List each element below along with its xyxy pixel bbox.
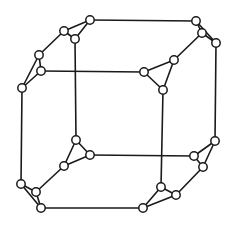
graph-node <box>86 16 94 24</box>
graph-node <box>71 35 79 43</box>
graph-node <box>139 204 147 212</box>
graph-node <box>211 137 219 145</box>
graph-node <box>159 86 167 94</box>
graph-node <box>212 39 220 47</box>
graph-node <box>35 51 43 59</box>
graph-edge <box>41 71 144 72</box>
graph-node <box>157 183 165 191</box>
graph-edge <box>75 39 76 140</box>
graph-edge <box>161 90 163 187</box>
graph-edge <box>176 167 203 195</box>
graph-node <box>140 68 148 76</box>
graph-edges <box>21 20 216 208</box>
graph-node <box>60 162 68 170</box>
graph-edge <box>90 155 194 156</box>
graph-node <box>72 136 80 144</box>
graph-node <box>60 27 68 35</box>
graph-node <box>37 67 45 75</box>
graph-edge <box>21 88 22 184</box>
graph-node <box>198 29 206 37</box>
graph-node <box>170 56 178 64</box>
graph-node <box>18 84 26 92</box>
graph-edge <box>90 20 196 21</box>
graph-node <box>199 163 207 171</box>
graph-node <box>192 17 200 25</box>
graph-edge <box>174 33 202 60</box>
graph-node <box>37 204 45 212</box>
graph-edge <box>36 166 64 192</box>
graph-node <box>190 152 198 160</box>
graph-node <box>172 191 180 199</box>
graph-edge <box>39 31 64 55</box>
graph-node <box>32 188 40 196</box>
graph-node <box>86 151 94 159</box>
graph-edge <box>215 43 216 141</box>
graph-node <box>17 180 25 188</box>
truncated-cube-diagram <box>0 0 233 226</box>
